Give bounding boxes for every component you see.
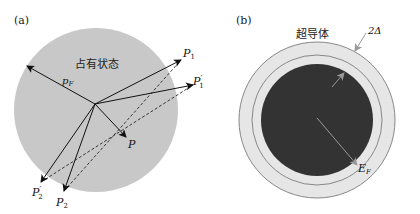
fermi-sea-core [261,64,373,176]
figure: (a) 占有状态 pF P1 P′1 P P′2 P2 (b) 超导体 2Δ E… [0,0,420,214]
superconductor-label: 超导体 [296,27,329,41]
label-p: P [127,138,136,151]
label-p1: P1 [182,47,195,61]
panel-b-label: (b) [236,14,252,27]
panel-a-label: (a) [14,14,29,27]
label-p2-prime: P′2 [31,184,43,201]
occupied-states-label: 占有状态 [75,57,119,71]
gap-arrow [355,33,366,51]
label-p1-prime: P′1 [192,73,204,90]
gap-label: 2Δ [367,25,382,36]
occupied-sphere [14,28,178,192]
panel-a: (a) 占有状态 pF P1 P′1 P P′2 P2 [14,14,204,210]
label-p2: P2 [55,196,68,210]
panel-b: (b) 超导体 2Δ EF [236,14,395,198]
